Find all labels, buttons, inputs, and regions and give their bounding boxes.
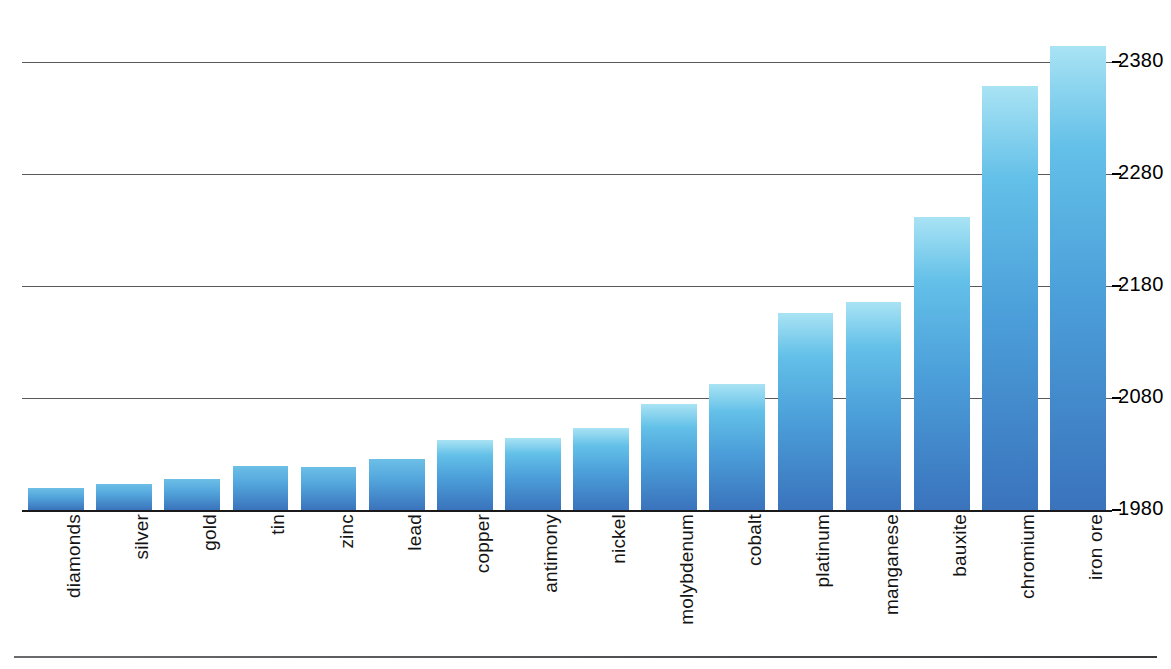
bar-gold: [164, 479, 220, 510]
x-tick-label-diamonds: diamonds: [63, 514, 85, 598]
y-tick-label-1980: 1980: [1118, 497, 1164, 520]
bar-molybdenum: [641, 404, 697, 510]
y-tick-label-2280: 2280: [1118, 161, 1164, 184]
bar-cobalt: [709, 384, 765, 510]
bar-lead: [369, 459, 425, 510]
x-tick-label-cobalt: cobalt: [744, 514, 766, 566]
x-tick-label-molybdenum: molybdenum: [676, 514, 698, 625]
x-tick-label-bauxite: bauxite: [949, 514, 971, 577]
x-tick-label-gold: gold: [199, 514, 221, 551]
bar-manganese: [846, 302, 902, 510]
bar-zinc: [301, 467, 357, 510]
y-tick-label-2380: 2380: [1118, 49, 1164, 72]
bar-tin: [233, 466, 289, 510]
bar-nickel: [573, 428, 629, 510]
x-tick-label-nickel: nickel: [608, 514, 630, 564]
x-tick-label-chromium: chromium: [1017, 514, 1039, 599]
y-tick-label-2080: 2080: [1118, 385, 1164, 408]
chart-figure: 19802080218022802380 diamondssilvergoldt…: [0, 0, 1171, 669]
x-tick-label-iron-ore: iron ore: [1085, 514, 1107, 580]
bar-antimony: [505, 438, 561, 510]
axis-baseline: [22, 510, 1112, 512]
bar-silver: [96, 484, 152, 510]
x-tick-label-tin: tin: [267, 514, 289, 535]
x-tick-label-lead: lead: [404, 514, 426, 551]
bar-copper: [437, 440, 493, 511]
y-tick-label-2180: 2180: [1118, 273, 1164, 296]
x-tick-label-antimony: antimony: [540, 514, 562, 593]
bar-diamonds: [28, 488, 84, 510]
x-tick-label-zinc: zinc: [336, 514, 358, 549]
x-tick-label-copper: copper: [472, 514, 494, 573]
category-axis: diamondssilvergoldtinzincleadcopperantim…: [22, 514, 1112, 624]
bar-series: [22, 40, 1112, 510]
x-tick-label-manganese: manganese: [881, 514, 903, 615]
footer-divider: [14, 656, 1157, 658]
x-tick-label-silver: silver: [131, 514, 153, 560]
bar-platinum: [778, 313, 834, 510]
bar-bauxite: [914, 217, 970, 510]
bar-iron-ore: [1050, 46, 1106, 510]
x-tick-label-platinum: platinum: [812, 514, 834, 587]
bar-chromium: [982, 86, 1038, 510]
